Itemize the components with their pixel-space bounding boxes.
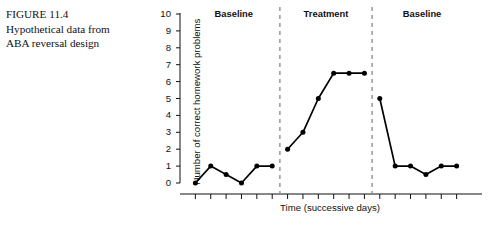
data-series	[193, 71, 459, 186]
y-tick-label: 3	[153, 127, 171, 137]
phase-dividers	[280, 7, 372, 194]
chart-container: Number of correct homework problems Time…	[150, 0, 504, 226]
y-tick-label: 7	[153, 60, 171, 70]
phase-label-3: Baseline	[372, 8, 472, 19]
y-tick-label: 4	[153, 110, 171, 120]
y-tick-label: 5	[153, 94, 171, 104]
y-tick-label: 10	[153, 9, 171, 19]
y-tick-label: 1	[153, 161, 171, 171]
phase-label-2: Treatment	[276, 8, 376, 19]
axes	[176, 13, 482, 199]
y-tick-label: 9	[153, 26, 171, 36]
plot-area	[150, 0, 504, 226]
y-tick-label: 2	[153, 144, 171, 154]
figure-caption-line-1: Hypothetical data from	[6, 22, 146, 37]
y-tick-label: 0	[153, 178, 171, 188]
figure-number: FIGURE 11.4	[6, 7, 146, 22]
y-tick-label: 8	[153, 43, 171, 53]
figure-caption-line-2: ABA reversal design	[6, 36, 146, 51]
phase-label-1: Baseline	[184, 8, 284, 19]
figure-caption: FIGURE 11.4 Hypothetical data from ABA r…	[6, 7, 146, 51]
y-tick-label: 6	[153, 77, 171, 87]
figure-root: FIGURE 11.4 Hypothetical data from ABA r…	[0, 0, 504, 226]
